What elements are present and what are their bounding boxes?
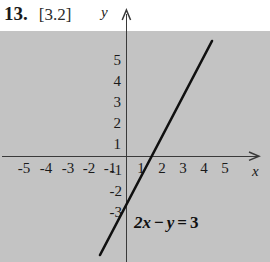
x-tick-1: 1 — [131, 160, 151, 176]
x-tick-3: 3 — [173, 160, 193, 176]
y-tick-3: 3 — [105, 94, 121, 110]
x-tick--4: -4 — [36, 160, 56, 176]
y-axis-arrow-icon — [119, 8, 135, 24]
x-tick-5: 5 — [215, 160, 235, 176]
problem-number: 13. — [4, 3, 28, 25]
x-tick-2: 2 — [152, 160, 172, 176]
graph-problem-figure: x y -5-4-3-2-11234554321-1-2-3 2x−y=3 13… — [0, 0, 270, 262]
section-reference: [3.2] — [39, 5, 72, 25]
coordinate-graph: x y -5-4-3-2-11234554321-1-2-3 2x−y=3 — [0, 0, 270, 262]
x-axis — [2, 156, 258, 157]
equation-annotation: 2x−y=3 — [134, 213, 198, 233]
y-axis-label: y — [101, 4, 108, 21]
equation-term-2x: 2x — [134, 213, 151, 232]
x-tick-4: 4 — [194, 160, 214, 176]
y-tick-5: 5 — [105, 52, 121, 68]
y-tick-1: 1 — [105, 136, 121, 152]
x-tick--2: -2 — [79, 160, 99, 176]
y-tick-2: 2 — [105, 115, 121, 131]
y-tick--3: -3 — [105, 204, 122, 220]
problem-header: 13. [3.2] — [4, 3, 75, 27]
equation-equals-sign: = — [174, 213, 190, 232]
y-tick--1: -1 — [105, 162, 122, 178]
y-axis — [126, 14, 127, 262]
x-tick--3: -3 — [58, 160, 78, 176]
y-tick-4: 4 — [105, 73, 121, 89]
x-axis-label: x — [252, 163, 259, 180]
equation-operator-minus: − — [151, 213, 167, 232]
x-tick--5: -5 — [14, 160, 34, 176]
equation-rhs: 3 — [190, 213, 199, 232]
y-tick--2: -2 — [105, 183, 122, 199]
